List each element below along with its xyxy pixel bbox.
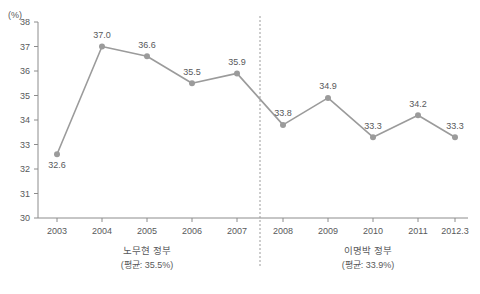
point-label-2011: 34.2 xyxy=(401,99,435,109)
x-tick-label-2009: 2009 xyxy=(308,226,348,236)
group-label-lee-title: 이명박 정부 xyxy=(298,244,438,258)
point-label-2009: 34.9 xyxy=(311,81,345,91)
group-label-lee: 이명박 정부 (평균: 33.9%) xyxy=(298,244,438,272)
x-tick-label-2012-3: 2012.3 xyxy=(435,226,475,236)
y-tick-label-38: 38 xyxy=(10,17,30,27)
data-markers xyxy=(54,44,458,158)
y-tick-label-30: 30 xyxy=(10,213,30,223)
y-tick-label-33: 33 xyxy=(10,140,30,150)
x-tick-label-2006: 2006 xyxy=(172,226,212,236)
y-tick-label-36: 36 xyxy=(10,66,30,76)
point-label-2005: 36.6 xyxy=(130,40,164,50)
x-tick-label-2010: 2010 xyxy=(353,226,393,236)
point-label-2003: 32.6 xyxy=(40,160,74,170)
group-label-roh: 노무현 정부 (평균: 35.5%) xyxy=(77,244,217,272)
point-label-2008: 33.8 xyxy=(266,108,300,118)
y-tick-label-31: 31 xyxy=(10,189,30,199)
point-label-2006: 35.5 xyxy=(175,67,209,77)
group-label-roh-title: 노무현 정부 xyxy=(77,244,217,258)
x-tick-label-2007: 2007 xyxy=(217,226,257,236)
x-tick-label-2003: 2003 xyxy=(37,226,77,236)
y-tick-label-34: 34 xyxy=(10,115,30,125)
y-tick-label-32: 32 xyxy=(10,164,30,174)
point-label-2010: 33.3 xyxy=(356,121,390,131)
y-tick-label-35: 35 xyxy=(10,91,30,101)
x-tick-label-2008: 2008 xyxy=(263,226,303,236)
point-label-2004: 37.0 xyxy=(85,30,119,40)
y-tick-label-37: 37 xyxy=(10,42,30,52)
x-tick-label-2011: 2011 xyxy=(398,226,438,236)
group-label-lee-average: (평균: 33.9%) xyxy=(298,258,438,272)
y-tick-marks xyxy=(34,22,38,218)
data-line xyxy=(57,47,455,155)
x-tick-label-2005: 2005 xyxy=(127,226,167,236)
chart-container: (%) xyxy=(0,0,480,294)
group-label-roh-average: (평균: 35.5%) xyxy=(77,258,217,272)
x-tick-label-2004: 2004 xyxy=(82,226,122,236)
x-tick-marks xyxy=(57,218,455,222)
point-label-2007: 35.9 xyxy=(220,57,254,67)
point-label-2012-3: 33.3 xyxy=(438,121,472,131)
